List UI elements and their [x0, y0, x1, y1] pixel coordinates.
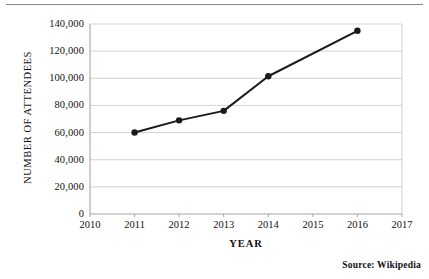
source-note: Source: Wikipedia — [342, 260, 421, 270]
y-tick-label-40000: 40,000 — [36, 155, 84, 166]
x-tick-label-2014: 2014 — [245, 219, 291, 230]
x-axis-title: YEAR — [90, 238, 402, 249]
y-axis-title: NUMBER OF ATTENDEES — [22, 28, 33, 208]
chart-figure: 140,000 120,000 100,000 80,000 60,000 40… — [0, 0, 429, 279]
x-tick-label-2017: 2017 — [379, 219, 425, 230]
y-tick-label-140000: 140,000 — [36, 19, 84, 30]
y-tick-label-120000: 120,000 — [36, 46, 84, 57]
x-tick-label-2013: 2013 — [201, 219, 247, 230]
x-tick-label-2016: 2016 — [334, 219, 380, 230]
data-point-2014 — [265, 73, 271, 79]
x-tick-label-2011: 2011 — [112, 219, 158, 230]
x-tick-label-2015: 2015 — [290, 219, 336, 230]
data-point-2012 — [176, 117, 182, 123]
data-point-2016 — [354, 28, 360, 34]
plot-background — [90, 24, 402, 214]
x-tick-label-2010: 2010 — [67, 219, 113, 230]
data-point-2013 — [221, 108, 227, 114]
y-tick-label-0: 0 — [36, 209, 84, 220]
data-point-2011 — [131, 129, 137, 135]
x-tick-label-2012: 2012 — [156, 219, 202, 230]
y-tick-label-60000: 60,000 — [36, 128, 84, 139]
y-tick-label-100000: 100,000 — [36, 73, 84, 84]
y-tick-label-80000: 80,000 — [36, 100, 84, 111]
y-tick-label-20000: 20,000 — [36, 182, 84, 193]
